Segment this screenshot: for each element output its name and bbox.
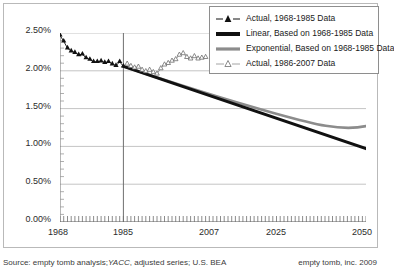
source-note: Source: empty tomb analysis;YACC, adjust…: [3, 258, 226, 268]
x-tick-label: 2050: [352, 228, 372, 237]
open-triangle-key-icon: [215, 58, 241, 70]
legend-label: Exponential, Based on 1968-1985 Data: [246, 44, 394, 53]
x-tick-label: 2025: [266, 228, 286, 237]
x-tick-label: 2007: [199, 228, 219, 237]
x-tick-label: 1985: [113, 228, 133, 237]
legend-item-linear: Linear, Based on 1968-1985 Data: [215, 26, 373, 41]
legend-item-exponential: Exponential, Based on 1968-1985 Data: [215, 41, 373, 56]
chart-legend: Actual, 1968-1985 Data Linear, Based on …: [209, 6, 379, 74]
x-tick-label: 1968: [48, 228, 68, 237]
legend-item-actual-1968-1985: Actual, 1968-1985 Data: [215, 11, 373, 26]
legend-label: Linear, Based on 1968-1985 Data: [246, 29, 373, 38]
chart-frame: 2.50% 2.00% 1.50% 1.00% 0.50% 0.00% 1968…: [3, 3, 378, 248]
legend-item-actual-1986-2007: Actual, 1986-2007 Data: [215, 56, 373, 71]
gray-line-key-icon: [215, 43, 241, 55]
source-prefix: Source: empty tomb analysis;: [3, 258, 108, 267]
series-actual-early-markers: [60, 33, 126, 68]
credit-note: empty tomb, inc. 2009: [298, 258, 377, 268]
source-suffix: , adjusted series; U.S. BEA: [130, 258, 227, 267]
y-axis-minor-ticks: [60, 41, 64, 215]
legend-label: Actual, 1968-1985 Data: [246, 14, 335, 23]
series-exponential-line: [123, 66, 366, 128]
thick-black-line-key-icon: [215, 28, 241, 40]
series-linear-line: [123, 66, 366, 148]
legend-label: Actual, 1986-2007 Data: [246, 59, 335, 68]
source-italic: YACC: [108, 258, 130, 267]
filled-triangle-key-icon: [215, 13, 241, 25]
x-axis-minor-ticks: [60, 216, 366, 222]
